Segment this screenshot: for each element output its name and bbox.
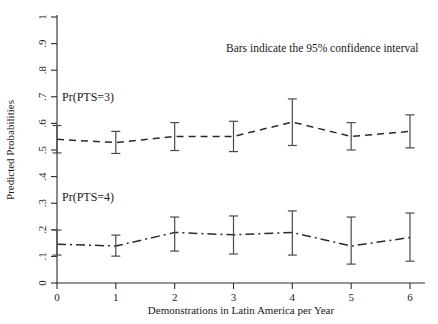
predicted-probabilities-chart: 0.1.2.3.4.5.6.7.8.91 Predicted Probabili… bbox=[0, 0, 438, 324]
x-tick-label: 4 bbox=[290, 291, 296, 303]
y-tick-label: .7 bbox=[36, 92, 48, 101]
y-tick-label: 1 bbox=[36, 14, 48, 20]
y-tick-label: 0 bbox=[36, 280, 48, 286]
y-tick-label: .2 bbox=[36, 226, 48, 234]
x-tick-label: 6 bbox=[407, 291, 413, 303]
y-tick-label: .3 bbox=[36, 199, 48, 208]
y-axis-title: Predicted Probabilities bbox=[4, 100, 16, 200]
y-tick-label: .4 bbox=[36, 172, 48, 181]
series-label-pr-pts-3: Pr(PTS=3) bbox=[62, 90, 114, 104]
y-tick-label: .1 bbox=[36, 252, 48, 260]
x-tick-label: 0 bbox=[54, 291, 60, 303]
x-tick-label: 1 bbox=[113, 291, 119, 303]
series-label-pr-pts-4: Pr(PTS=4) bbox=[62, 190, 114, 204]
y-tick-label: .8 bbox=[36, 66, 48, 75]
x-tick-label: 3 bbox=[231, 291, 237, 303]
y-tick-label: .6 bbox=[36, 119, 48, 128]
x-tick-label: 2 bbox=[172, 291, 178, 303]
y-tick-label: .9 bbox=[36, 39, 48, 48]
confidence-interval-note: Bars indicate the 95% confidence interva… bbox=[226, 42, 419, 54]
y-tick-label: .5 bbox=[36, 145, 48, 154]
x-axis-title: Demonstrations in Latin America per Year bbox=[148, 304, 335, 316]
chart-figure: 0.1.2.3.4.5.6.7.8.91 Predicted Probabili… bbox=[0, 0, 438, 324]
x-tick-label: 5 bbox=[348, 291, 354, 303]
